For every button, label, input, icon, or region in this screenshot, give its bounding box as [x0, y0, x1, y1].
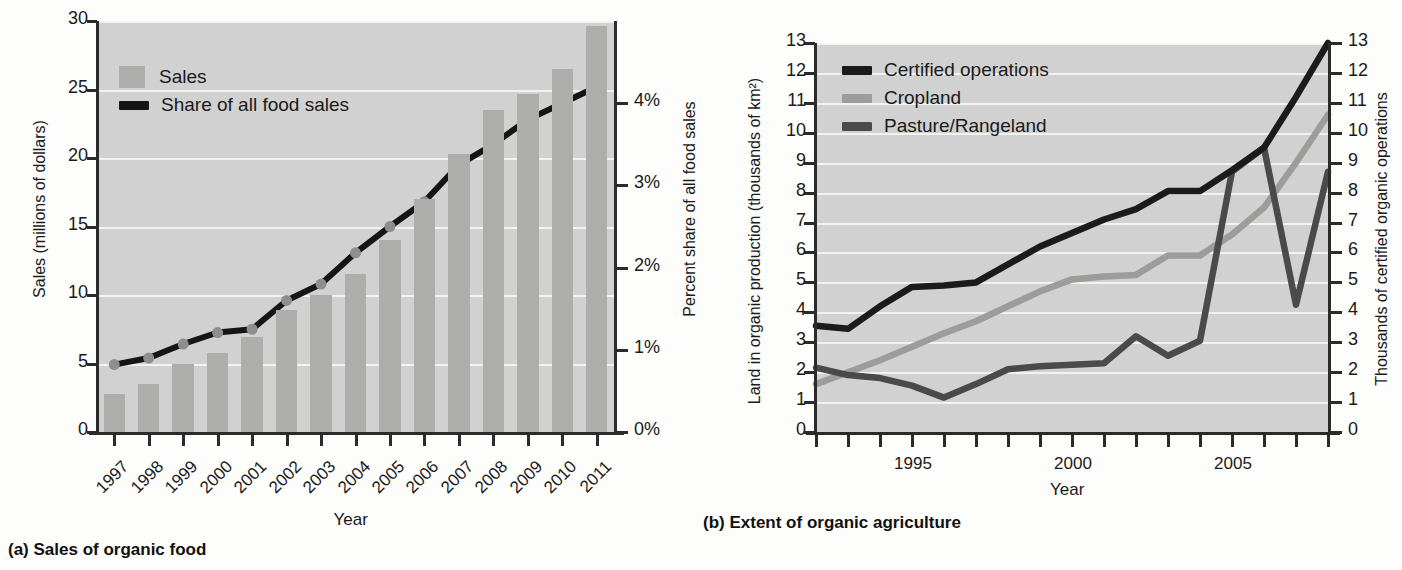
y-tick-right[interactable]: [1331, 371, 1342, 374]
y-tick-label[interactable]: 3: [758, 329, 806, 350]
x-tick[interactable]: [561, 435, 564, 446]
bar-1997[interactable]: [104, 394, 125, 432]
bar-2002[interactable]: [276, 310, 297, 432]
y-tick[interactable]: [87, 363, 97, 366]
bar-2007[interactable]: [448, 154, 469, 432]
x-tick[interactable]: [1007, 435, 1010, 447]
y-tick-label[interactable]: 4: [758, 299, 806, 320]
bar-2003[interactable]: [310, 295, 331, 432]
x-tick[interactable]: [182, 435, 185, 446]
y-tick-right[interactable]: [1331, 222, 1342, 225]
y-tick-label[interactable]: 6: [758, 239, 806, 260]
y-tick[interactable]: [87, 226, 97, 229]
y-tick-label-right[interactable]: 0%: [634, 419, 660, 440]
y-tick-label[interactable]: 0: [758, 419, 806, 440]
y-tick-label-right[interactable]: 0: [1348, 419, 1358, 440]
y-tick-label-right[interactable]: 3: [1348, 329, 1358, 350]
y-tick-label-right[interactable]: 4%: [634, 90, 660, 111]
y-tick-right[interactable]: [617, 349, 628, 352]
y-tick-label-right[interactable]: 8: [1348, 180, 1358, 201]
x-tick-label[interactable]: 2000: [1047, 454, 1099, 474]
y-tick-label[interactable]: 7: [758, 210, 806, 231]
y-tick[interactable]: [87, 20, 97, 23]
x-tick[interactable]: [943, 435, 946, 447]
x-tick[interactable]: [1231, 435, 1234, 447]
y-tick-label-right[interactable]: 10: [1348, 120, 1368, 141]
x-tick[interactable]: [458, 435, 461, 446]
y-tick-label-right[interactable]: 4: [1348, 299, 1358, 320]
y-tick-label-right[interactable]: 3%: [634, 172, 660, 193]
y-tick-right[interactable]: [1331, 281, 1342, 284]
x-tick[interactable]: [251, 435, 254, 446]
y-tick-label[interactable]: 20: [38, 145, 88, 166]
bar-1998[interactable]: [138, 384, 159, 432]
y-tick-label[interactable]: 15: [38, 214, 88, 235]
x-tick[interactable]: [320, 435, 323, 446]
x-tick-label[interactable]: 2005: [1207, 454, 1259, 474]
bar-2011[interactable]: [586, 26, 607, 432]
y-tick-right[interactable]: [1331, 251, 1342, 254]
y-tick[interactable]: [87, 157, 97, 160]
x-tick[interactable]: [911, 435, 914, 447]
y-tick[interactable]: [87, 89, 97, 92]
y-tick-label[interactable]: 5: [758, 269, 806, 290]
bar-2001[interactable]: [241, 337, 262, 432]
x-tick[interactable]: [847, 435, 850, 447]
x-tick[interactable]: [1295, 435, 1298, 447]
bar-2010[interactable]: [552, 69, 573, 432]
y-tick-right[interactable]: [1331, 162, 1342, 165]
y-tick-label[interactable]: 1: [758, 389, 806, 410]
y-tick-right[interactable]: [1331, 72, 1342, 75]
x-tick[interactable]: [1327, 435, 1330, 447]
y-tick-right[interactable]: [1331, 311, 1342, 314]
y-tick-right[interactable]: [617, 431, 628, 434]
bar-2005[interactable]: [379, 240, 400, 432]
x-tick[interactable]: [423, 435, 426, 446]
y-tick-label-right[interactable]: 1: [1348, 389, 1358, 410]
x-tick[interactable]: [879, 435, 882, 447]
y-tick-right[interactable]: [617, 102, 628, 105]
x-tick[interactable]: [1103, 435, 1106, 447]
x-tick[interactable]: [1199, 435, 1202, 447]
x-tick-label[interactable]: 1995: [887, 454, 939, 474]
y-tick-right[interactable]: [617, 184, 628, 187]
x-tick[interactable]: [815, 435, 818, 447]
y-tick-label[interactable]: 30: [38, 8, 88, 29]
y-tick-label-right[interactable]: 11: [1348, 90, 1367, 111]
y-tick-label[interactable]: 9: [758, 150, 806, 171]
y-tick-label-right[interactable]: 6: [1348, 239, 1358, 260]
bar-2006[interactable]: [414, 199, 435, 432]
y-tick-label[interactable]: 5: [38, 351, 88, 372]
bar-2004[interactable]: [345, 274, 366, 432]
y-tick-label[interactable]: 11: [758, 90, 806, 111]
y-tick-label-right[interactable]: 9: [1348, 150, 1358, 171]
y-tick-right[interactable]: [1331, 42, 1342, 45]
x-tick[interactable]: [355, 435, 358, 446]
y-tick-label-right[interactable]: 5: [1348, 269, 1358, 290]
y-tick-label[interactable]: 12: [758, 60, 806, 81]
y-tick[interactable]: [87, 431, 97, 434]
x-tick[interactable]: [975, 435, 978, 447]
bar-2009[interactable]: [517, 94, 538, 432]
y-tick-label[interactable]: 2: [758, 359, 806, 380]
y-tick-label-right[interactable]: 2: [1348, 359, 1358, 380]
y-tick-label[interactable]: 8: [758, 180, 806, 201]
x-tick[interactable]: [389, 435, 392, 446]
y-tick-label[interactable]: 25: [38, 77, 88, 98]
y-tick-right[interactable]: [1331, 341, 1342, 344]
x-tick[interactable]: [1167, 435, 1170, 447]
y-tick-label-right[interactable]: 7: [1348, 210, 1358, 231]
y-tick-right[interactable]: [1331, 401, 1342, 404]
x-tick[interactable]: [1071, 435, 1074, 447]
y-tick[interactable]: [87, 294, 97, 297]
panel-a-right-axis-line[interactable]: [614, 21, 617, 433]
bar-2008[interactable]: [483, 110, 504, 432]
x-tick[interactable]: [1135, 435, 1138, 447]
x-tick[interactable]: [148, 435, 151, 446]
x-tick[interactable]: [217, 435, 220, 446]
bar-2000[interactable]: [207, 353, 228, 432]
bar-1999[interactable]: [172, 364, 193, 433]
x-tick[interactable]: [527, 435, 530, 446]
y-tick-right[interactable]: [1331, 192, 1342, 195]
x-tick[interactable]: [286, 435, 289, 446]
